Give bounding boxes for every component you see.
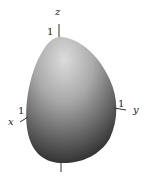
x-axis-tick: 1 [18, 106, 24, 116]
surface-figure [0, 0, 149, 177]
z-axis-label: z [55, 7, 60, 17]
y-axis-label: y [133, 105, 139, 115]
y-axis-tick: 1 [118, 99, 124, 109]
z-axis-tick: 1 [47, 27, 53, 37]
closed-surface [26, 37, 116, 163]
x-axis-label: x [8, 117, 14, 127]
